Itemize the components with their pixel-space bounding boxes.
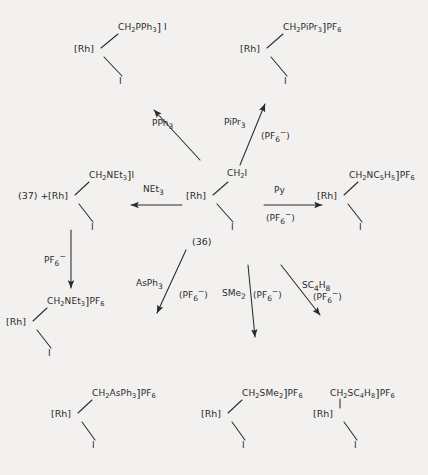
bonds-top-left-product [101,34,122,76]
bonds-bottom-right-product [340,399,357,440]
bonds-bottom-left-product [78,400,95,440]
mid-right-metal-label: [Rh] [317,191,337,201]
top-right-iodide-label: I [284,77,287,86]
mid-left-metal-label: [Rh] [48,191,68,201]
bonds-mid-right-product [344,182,362,222]
mid-right-iodide-label: I [359,223,362,232]
top-left-iodide-label: I [119,77,122,86]
lower-left-substituent-label: CH2NEt3]PF6 [47,295,105,306]
lower-left-iodide-label: I [48,349,51,358]
arrow-label-net3: NEt3 [143,184,164,197]
arrow-condition-sme2: (PF6−) [253,288,282,303]
bottom-center-metal-label: [Rh] [201,409,221,419]
bottom-left-iodide-label: I [92,441,95,450]
mid-left-iodide-label: I [91,223,94,232]
top-left-substituent-label: CH2PPh3] I [118,21,167,32]
bottom-left-metal-label: [Rh] [51,409,71,419]
top-right-substituent-label: CH2PiPr3]PF6 [283,21,341,32]
top-left-metal-label: [Rh] [74,44,94,54]
mid-right-substituent-label: CH2NC5H5]PF6 [349,169,415,180]
bonds-bottom-center-product [228,400,245,440]
arrow-label-sme2: SMe2 [222,288,246,301]
bonds-lower-left-product [33,308,51,348]
center-compound-number: (36) [192,237,212,247]
arrow-label-pf6: PF6− [44,253,66,268]
center-metal-label: [Rh] [186,191,206,201]
bonds-top-right-product [267,34,287,76]
bonds-mid-left-product [75,182,93,222]
bottom-center-iodide-label: I [242,441,245,450]
bottom-right-substituent-label: CH2SC4H8]PF6 [330,387,395,398]
reaction-scheme-canvas [0,0,428,475]
arrow-label-asph3: AsPh3 [136,278,163,291]
bottom-center-substituent-label: CH2SMe2]PF6 [242,387,303,398]
bottom-left-substituent-label: CH2AsPh3]PF6 [92,387,156,398]
bottom-right-iodide-label: I [354,441,357,450]
arrow-condition-pipr3: (PF6−) [261,129,290,144]
arrow-condition-py: (PF6−) [266,211,295,226]
center-substituent-label: CH2I [227,169,247,178]
arrow-condition-asph3: (PF6−) [179,288,208,303]
bonds-center-compound [213,182,233,222]
center-iodide-label: I [231,223,234,232]
arrow-label-pph3: PPh3 [152,118,173,131]
arrow-condition-sc4h8: (PF6−) [313,290,342,305]
mid-left-substituent-label: CH2NEt3]I [89,169,134,180]
compound-37-prefix-label: (37) + [18,191,48,201]
arrow-label-pipr3: PiPr3 [224,117,245,130]
bottom-right-metal-label: [Rh] [313,409,333,419]
arrow-label-py: Py [274,185,285,195]
lower-left-metal-label: [Rh] [6,317,26,327]
top-right-metal-label: [Rh] [240,44,260,54]
